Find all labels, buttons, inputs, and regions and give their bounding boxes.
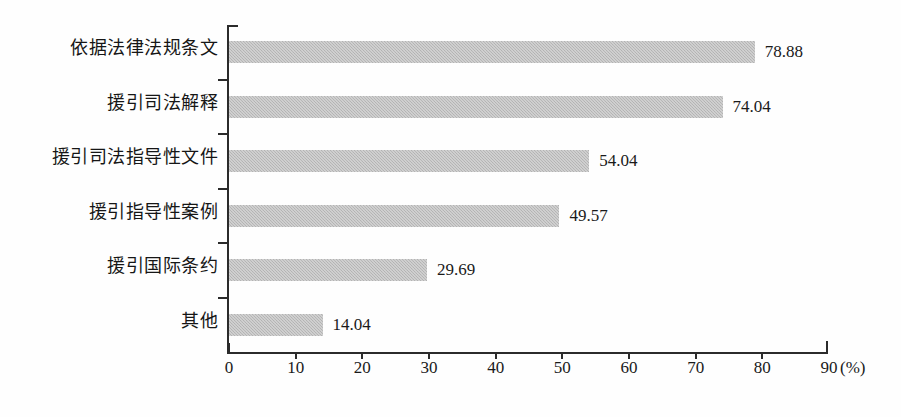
category-label-2: 援引司法指导性文件 xyxy=(52,146,219,168)
x-axis-tick-label-20: 20 xyxy=(342,358,382,378)
category-label-0: 依据法律法规条文 xyxy=(70,37,218,59)
x-axis-tick-0 xyxy=(228,343,230,354)
x-axis-tick-label-40: 40 xyxy=(476,358,516,378)
horizontal-bar-chart: 依据法律法规条文援引司法解释援引司法指导性文件援引指导性案例援引国际条约其他 7… xyxy=(0,0,901,417)
bar-value-label-2: 54.04 xyxy=(599,150,637,172)
x-axis-tick-label-30: 30 xyxy=(409,358,449,378)
x-axis-unit-label: (%) xyxy=(840,358,865,378)
category-tick-1 xyxy=(218,79,229,81)
bar-2 xyxy=(229,150,589,172)
x-axis-tick-label-50: 50 xyxy=(542,358,582,378)
category-label-3: 援引指导性案例 xyxy=(89,201,219,223)
x-axis-line xyxy=(227,352,828,354)
bar-3 xyxy=(229,205,559,227)
bar-4 xyxy=(229,259,427,281)
bar-1 xyxy=(229,96,723,118)
x-axis-tick-label-70: 70 xyxy=(676,358,716,378)
plot-area: 依据法律法规条文援引司法解释援引司法指导性文件援引指导性案例援引国际条约其他 7… xyxy=(0,0,901,417)
category-tick-4 xyxy=(218,242,229,244)
bar-value-label-1: 74.04 xyxy=(733,96,771,118)
bar-value-label-5: 14.04 xyxy=(333,314,371,336)
bar-value-label-4: 29.69 xyxy=(437,259,475,281)
x-axis-tick-label-0: 0 xyxy=(209,358,249,378)
x-axis-tick-label-80: 80 xyxy=(742,358,782,378)
category-tick-3 xyxy=(218,188,229,190)
category-label-4: 援引国际条约 xyxy=(107,255,218,277)
category-tick-5 xyxy=(218,297,229,299)
category-tick-2 xyxy=(218,133,229,135)
y-axis-top-cap xyxy=(227,25,238,27)
x-axis-end-cap xyxy=(826,341,828,353)
bar-5 xyxy=(229,314,323,336)
category-label-1: 援引司法解释 xyxy=(107,92,218,114)
x-axis-tick-label-60: 60 xyxy=(609,358,649,378)
bar-value-label-0: 78.88 xyxy=(765,41,803,63)
bar-0 xyxy=(229,41,755,63)
x-axis-tick-label-10: 10 xyxy=(276,358,316,378)
category-label-5: 其他 xyxy=(181,310,218,332)
bar-value-label-3: 49.57 xyxy=(569,205,607,227)
